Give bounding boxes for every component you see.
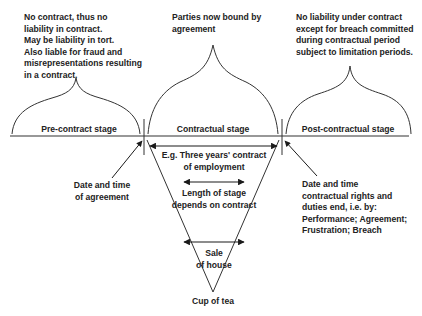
contractual-note: Parties now bound by agreement bbox=[172, 12, 261, 35]
long-example-label: E.g. Three years' contract of employment bbox=[150, 150, 278, 173]
contractual-stage-label: Contractual stage bbox=[150, 124, 276, 134]
note-line: agreement bbox=[172, 24, 261, 36]
end-pointer-arrow bbox=[285, 141, 317, 176]
contractual-brace bbox=[148, 45, 278, 134]
annotation-line: Frustration; Breach bbox=[302, 225, 407, 237]
middle-example-label: Length of stage depends on contract bbox=[160, 188, 268, 211]
annotation-line: Date and time bbox=[302, 179, 407, 191]
post-contract-note: No liability under contract except for b… bbox=[296, 12, 413, 58]
label-line: Sale bbox=[180, 248, 248, 260]
pre-contract-note: No contract, thus no liability in contra… bbox=[24, 12, 142, 81]
label-line: of employment bbox=[150, 162, 278, 174]
post-contract-stage-label: Post-contractual stage bbox=[290, 124, 406, 134]
start-pointer-arrow bbox=[112, 141, 142, 178]
note-line: in a contract. bbox=[24, 70, 142, 82]
annotation-line: of agreement bbox=[62, 192, 142, 204]
label-line: depends on contract bbox=[160, 200, 268, 212]
note-line: misrepresentations resulting bbox=[24, 58, 142, 70]
note-line: except for breach committed bbox=[296, 24, 413, 36]
end-annotation: Date and time contractual rights and dut… bbox=[302, 179, 407, 237]
note-line: No contract, thus no bbox=[24, 12, 142, 24]
note-line: No liability under contract bbox=[296, 12, 413, 24]
short-example-label: Sale of house bbox=[180, 248, 248, 271]
pre-contract-stage-label: Pre-contract stage bbox=[20, 124, 138, 134]
annotation-line: duties end, i.e. by: bbox=[302, 202, 407, 214]
annotation-line: Performance; Agreement; bbox=[302, 214, 407, 226]
note-line: Also liable for fraud and bbox=[24, 47, 142, 59]
annotation-line: Date and time bbox=[62, 180, 142, 192]
start-annotation: Date and time of agreement bbox=[62, 180, 142, 203]
label-line: of house bbox=[180, 260, 248, 272]
note-line: Parties now bound by bbox=[172, 12, 261, 24]
note-line: during contractual period bbox=[296, 35, 413, 47]
shortest-example-label: Cup of tea bbox=[173, 296, 253, 308]
note-line: subject to limitation periods. bbox=[296, 47, 413, 59]
label-line: E.g. Three years' contract bbox=[150, 150, 278, 162]
annotation-line: contractual rights and bbox=[302, 191, 407, 203]
label-line: Length of stage bbox=[160, 188, 268, 200]
note-line: liability in contract. bbox=[24, 24, 142, 36]
note-line: May be liability in tort. bbox=[24, 35, 142, 47]
